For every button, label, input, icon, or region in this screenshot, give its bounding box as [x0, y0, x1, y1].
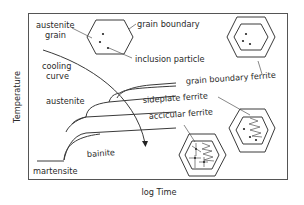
label-bainite: bainite — [86, 147, 115, 159]
accicular-ferrite-icon — [179, 134, 226, 176]
x-axis-label: log Time — [141, 187, 176, 197]
label-grain-boundary-ferrite: grain boundary ferrite — [185, 70, 276, 86]
sideplate-leader — [218, 97, 250, 115]
label-sideplate-ferrite: sideplate ferrite — [142, 90, 208, 105]
label-cooling-curve-2: curve — [46, 71, 69, 81]
austenite-grain-icon — [87, 20, 133, 54]
grain-boundary-leader — [129, 24, 136, 29]
inclusion-particle-leader — [109, 48, 132, 58]
cct-diagram: Temperature log Time austenite grain gra… — [0, 0, 304, 205]
label-austenite-region: austenite — [46, 96, 84, 106]
grain-boundary-ferrite-icon — [227, 17, 275, 74]
label-martensite: martensite — [33, 166, 78, 176]
label-accicular-ferrite: accicular ferrite — [148, 107, 213, 121]
label-austenite-grain-1: austenite — [36, 20, 74, 30]
y-axis-label: Temperature — [12, 71, 22, 124]
label-cooling-curve-1: cooling — [42, 61, 71, 71]
label-inclusion-particle: inclusion particle — [135, 54, 205, 64]
label-austenite-grain-2: grain — [45, 30, 66, 40]
label-grain-boundary: grain boundary — [137, 19, 200, 29]
sideplate-ferrite-icon — [229, 109, 275, 152]
